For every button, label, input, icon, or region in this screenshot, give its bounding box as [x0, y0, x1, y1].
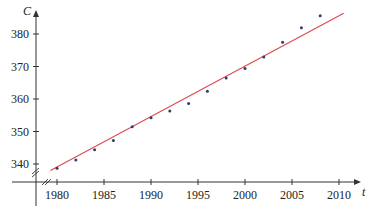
fit-line-segment: [50, 13, 343, 170]
x-tick-label: 1995: [186, 188, 210, 202]
axes: C t: [12, 4, 366, 206]
data-point: [74, 159, 77, 162]
data-point: [150, 116, 153, 119]
y-tick-label: 360: [11, 92, 29, 106]
data-point: [56, 167, 59, 170]
x-tick-label: 1980: [45, 188, 69, 202]
x-tick-label: 2010: [327, 188, 351, 202]
data-point: [262, 56, 265, 59]
data-point: [225, 76, 228, 79]
x-tick-label: 2005: [280, 188, 304, 202]
y-ticks: 340350360370380: [11, 27, 39, 171]
x-tick-label: 2000: [233, 188, 257, 202]
x-tick-label: 1990: [139, 188, 163, 202]
x-axis-title: t: [362, 185, 366, 199]
data-point: [206, 90, 209, 93]
linear-fit-line: [50, 13, 343, 170]
x-axis-arrow-icon: [354, 179, 361, 185]
data-point: [319, 14, 322, 17]
y-axis-arrow-icon: [33, 10, 39, 17]
y-tick-label: 350: [11, 125, 29, 139]
data-point: [168, 110, 171, 113]
data-point: [244, 67, 247, 70]
data-point: [112, 139, 115, 142]
data-point: [131, 125, 134, 128]
y-tick-label: 340: [11, 157, 29, 171]
y-tick-label: 370: [11, 60, 29, 74]
co2-scatter-chart: C t 1980198519901995200020052010 3403503…: [0, 0, 369, 212]
data-point: [187, 102, 190, 105]
x-tick-label: 1985: [92, 188, 116, 202]
data-point: [281, 41, 284, 44]
y-axis-title: C: [23, 4, 32, 18]
data-point: [300, 26, 303, 29]
y-tick-label: 380: [11, 27, 29, 41]
data-point: [93, 148, 96, 151]
